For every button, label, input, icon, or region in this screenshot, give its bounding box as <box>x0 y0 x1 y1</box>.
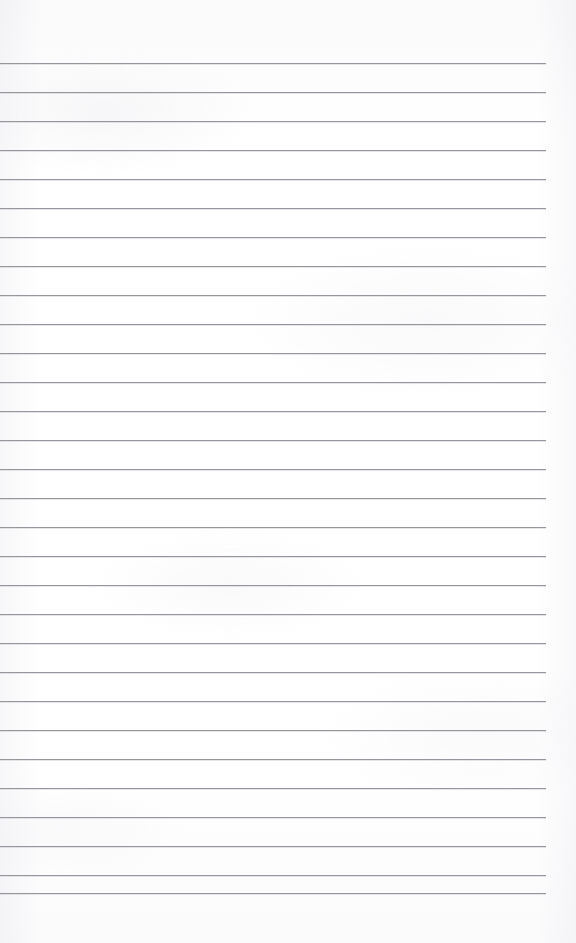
lined-paper-page <box>0 0 576 943</box>
writing-area[interactable] <box>0 63 546 903</box>
